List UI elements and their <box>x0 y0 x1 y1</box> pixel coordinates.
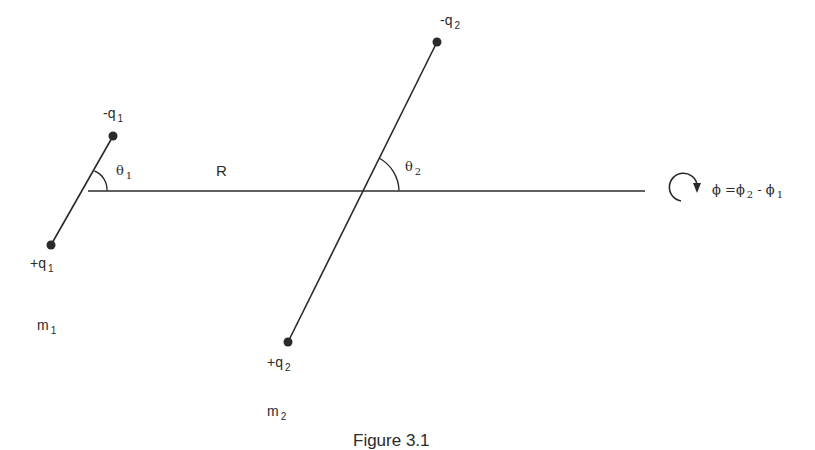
label-theta2: θ2 <box>405 160 421 177</box>
charge-neg-q1-dot <box>109 132 118 141</box>
charge-pos-q1-dot <box>47 241 56 250</box>
label-neg-q1: -q1 <box>103 106 123 124</box>
rotation-equation: ϕ =ϕ2 - ϕ1 <box>712 183 783 200</box>
label-pos-q1: +q1 <box>30 256 54 274</box>
rotation-arrow-icon <box>669 173 701 201</box>
theta2-arc <box>379 158 399 191</box>
label-m2: m2 <box>267 404 286 422</box>
charge-pos-q2-dot <box>284 338 293 347</box>
dipole-2-rod <box>288 42 437 342</box>
label-pos-q2: +q2 <box>267 355 291 373</box>
charge-neg-q2-dot <box>433 38 442 47</box>
label-r: R <box>216 163 227 178</box>
figure-caption: Figure 3.1 <box>353 432 430 449</box>
label-m1: m1 <box>37 318 56 336</box>
theta1-arc <box>95 171 108 191</box>
label-neg-q2: -q2 <box>440 13 460 31</box>
label-theta1: θ1 <box>116 164 132 181</box>
